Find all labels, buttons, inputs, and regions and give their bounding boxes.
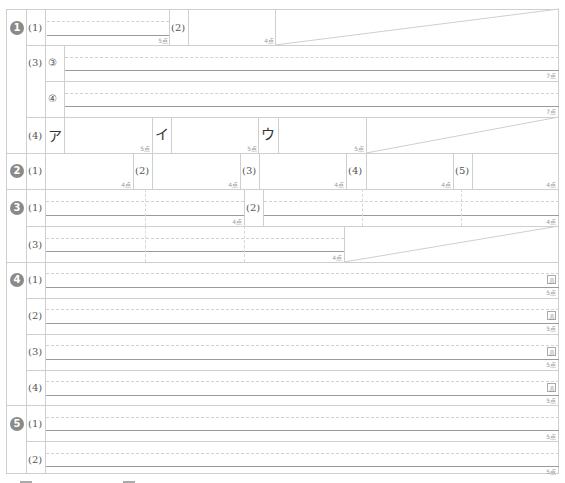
cell-border [152,117,153,153]
s1-row1-diagonal-strike [275,9,559,45]
cell-border [258,117,259,153]
s4-q1-mark-box: 表 [547,275,556,284]
section-5-badge: 5 [10,417,24,431]
cell-border [263,189,264,226]
cell-border [169,9,170,45]
s1-row4-diagonal-strike [366,117,559,153]
section-3-badge: 3 [10,201,24,215]
section-divider-4-5 [6,405,559,406]
s2-q1-label: (1) [28,165,42,177]
s1-q3-sub2-label: ④ [48,93,57,105]
s4-q4-answer-line[interactable] [46,395,559,396]
s3-q1-label: (1) [28,202,42,214]
s2-q5-points: 4点 [528,181,556,188]
cell-divider-dashed [244,226,245,262]
section-divider-3-4 [6,262,559,263]
s2-q1-points: 4点 [103,181,131,188]
s1-q4-u-label: ウ [261,126,275,142]
cell-border [240,153,241,189]
s4-q2-answer-line[interactable] [46,323,559,324]
s2-q4-label: (4) [348,165,362,177]
s3-q1-points: 4点 [214,218,242,225]
section-4-badge: 4 [10,273,24,287]
s3-q3-answer-line[interactable] [46,251,344,252]
s1-q3-sub1-guide [65,57,559,58]
s4-q1-answer-line[interactable] [46,287,559,288]
cell-border [346,153,347,189]
s1-q3-sub1-label: ③ [48,57,57,69]
section-divider-2-3 [6,189,559,190]
s1-q3-sub1-points: 7点 [528,72,556,79]
section-2-badge: 2 [10,164,24,178]
cell-border [133,153,134,189]
cell-border [244,189,245,226]
s2-q5-label: (5) [455,165,469,177]
cell-border [453,153,454,189]
section-1-badge: 1 [10,21,24,35]
s2-q3-points: 4点 [316,181,344,188]
s2-q3-label: (3) [242,165,256,177]
s4-q4-guide [46,381,559,382]
s1-q2-points: 4点 [248,37,274,44]
s4-q2-points: 5点 [528,325,556,332]
s5-q2-label: (2) [28,454,42,466]
s1-q4-i-label: イ [155,126,169,142]
s1-q1-guide [47,21,169,22]
s2-q2-label: (2) [135,165,149,177]
s2-q4-points: 4点 [423,181,451,188]
s4-q2-guide [46,309,559,310]
s2-q2-points: 4点 [210,181,238,188]
s4-q3-guide [46,345,559,346]
s4-q2-label: (2) [28,310,42,322]
s3-q2-answer-line[interactable] [264,215,559,216]
s4-q4-points: 5点 [528,397,556,404]
row-border [26,298,559,299]
s4-q1-points: 5点 [528,289,556,296]
cell-divider-dashed [145,226,146,262]
row-border [26,441,559,442]
cell-divider-dashed [461,189,462,226]
s1-q4-i-points: 5点 [229,145,257,152]
s1-q1-answer-line[interactable] [47,35,169,36]
s1-q4-a-points: 5点 [122,145,150,152]
s4-q4-label: (4) [28,382,42,394]
s5-q2-answer-line[interactable] [46,466,559,467]
s1-q3-sub1-answer-line[interactable] [65,70,559,71]
s4-q3-mark-box: 表 [547,347,556,356]
s1-q4-a-label: ア [48,128,62,144]
s1-q1-points: 5点 [140,37,168,44]
s1-q3-label: (3) [28,57,42,69]
s3-q2-label: (2) [246,202,260,214]
s1-q2-label: (2) [171,22,185,34]
s3-q3-label: (3) [28,239,42,251]
s5-q1-guide [46,417,559,418]
s4-q3-points: 5点 [528,361,556,368]
s4-q3-label: (3) [28,346,42,358]
s1-q4-u-points: 5点 [336,145,364,152]
s5-q2-points: 5点 [528,468,556,475]
s1-q3-sub2-points: 7点 [528,108,556,115]
s1-q4-label: (4) [28,130,42,142]
row-border [26,45,559,46]
s1-q3-sub2-answer-line[interactable] [65,106,559,107]
s3-q2-points: 4点 [528,218,556,225]
row-border [45,81,559,82]
s3-q2-guide [264,201,559,202]
s3-q3-guide [46,238,344,239]
s5-q1-answer-line[interactable] [46,430,559,431]
s4-q1-guide [46,273,559,274]
row-border [26,370,559,371]
s5-q1-points: 5点 [528,433,556,440]
s4-q1-label: (1) [28,274,42,286]
cell-divider-dashed [362,189,363,226]
s4-q2-mark-box: 表 [547,311,556,320]
s4-q4-mark-box: 表 [547,383,556,392]
s3-row3-diagonal-strike [344,226,559,262]
s3-q3-points: 4点 [314,254,342,261]
cell-divider-dashed [145,189,146,226]
s5-q1-label: (1) [28,418,42,430]
s1-q1-label: (1) [28,22,42,34]
s1-q3-sub2-guide [65,93,559,94]
s4-q3-answer-line[interactable] [46,359,559,360]
s5-q2-guide [46,453,559,454]
